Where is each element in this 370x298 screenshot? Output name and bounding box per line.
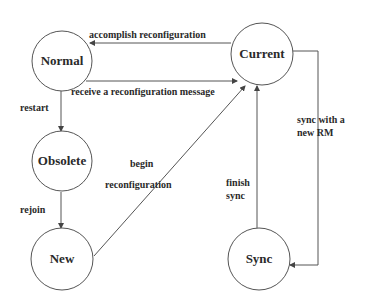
label-restart: restart	[20, 102, 49, 113]
node-new-label: New	[50, 251, 75, 266]
node-obsolete-label: Obsolete	[38, 153, 87, 168]
label-receive-reconfiguration-message: receive a reconfiguration message	[71, 86, 215, 97]
node-sync-label: Sync	[246, 251, 273, 266]
edge-sync-with-new-rm	[290, 51, 318, 265]
node-obsolete: Obsolete	[32, 131, 92, 191]
label-begin: begin	[130, 158, 154, 169]
state-diagram: accomplish reconfiguration receive a rec…	[0, 0, 370, 298]
label-new-rm: new RM	[297, 127, 334, 138]
node-current: Current	[231, 23, 293, 85]
node-normal-label: Normal	[41, 53, 84, 68]
node-sync: Sync	[228, 228, 290, 290]
node-new: New	[31, 228, 93, 290]
label-sync-with-a: sync with a	[297, 114, 345, 125]
label-accomplish-reconfiguration: accomplish reconfiguration	[89, 29, 206, 40]
label-sync: sync	[226, 190, 245, 201]
node-current-label: Current	[239, 46, 285, 61]
label-rejoin: rejoin	[20, 204, 46, 215]
label-reconfiguration: reconfiguration	[105, 179, 172, 190]
edge-begin-reconfiguration	[94, 86, 245, 256]
label-finish: finish	[226, 177, 250, 188]
node-normal: Normal	[32, 31, 92, 91]
